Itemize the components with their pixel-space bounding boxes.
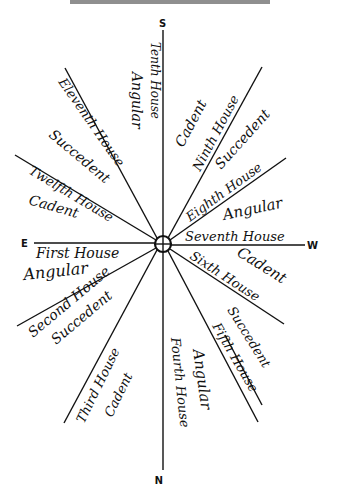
compass-south: S bbox=[159, 18, 166, 29]
center-circle bbox=[155, 236, 171, 252]
astrological-houses-diagram: S N E W Tenth House Angular Cadent Ninth… bbox=[0, 0, 338, 498]
label-first-type: Angular bbox=[20, 258, 90, 284]
compass-east: E bbox=[21, 238, 28, 249]
header-clipped bbox=[70, 0, 270, 4]
label-seventh-house: Seventh House bbox=[185, 229, 285, 244]
compass-west: W bbox=[307, 240, 318, 251]
label-fourth-type: Angular bbox=[189, 346, 216, 411]
label-tenth-house: Tenth House bbox=[148, 42, 162, 119]
label-tenth-type: Angular bbox=[129, 70, 145, 130]
compass-north: N bbox=[155, 474, 163, 485]
label-fourth-house: Fourth House bbox=[168, 336, 192, 429]
